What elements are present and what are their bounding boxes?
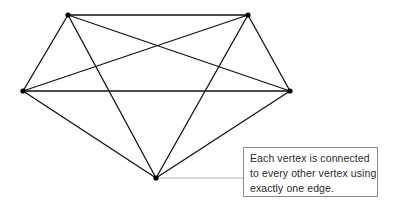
diagram-canvas: Each vertex is connected to every other … <box>0 0 405 210</box>
graph-vertex-top-right <box>245 12 250 17</box>
graph-vertex-top-left <box>65 12 70 17</box>
graph-vertex-left <box>20 88 25 93</box>
callout-line-3: exactly one edge. <box>250 181 372 196</box>
graph-edge <box>156 15 248 178</box>
graph-edge <box>23 15 248 91</box>
graph-vertex-bottom <box>153 175 158 180</box>
callout-textbox: Each vertex is connected to every other … <box>243 147 378 197</box>
graph-edge <box>23 91 156 178</box>
graph-edge <box>23 15 68 91</box>
graph-edge <box>68 15 290 91</box>
graph-edge <box>248 15 290 91</box>
graph-vertex-right <box>287 88 292 93</box>
callout-line-2: to every other vertex using <box>250 166 372 181</box>
graph-edge <box>68 15 156 178</box>
callout-line-1: Each vertex is connected <box>250 151 372 166</box>
